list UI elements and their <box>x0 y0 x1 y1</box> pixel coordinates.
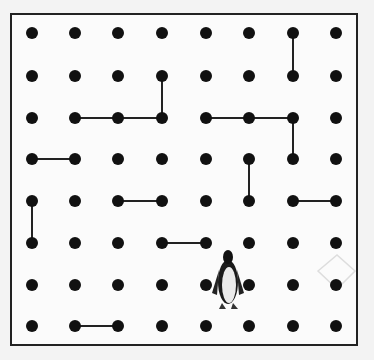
grid-dot[interactable] <box>330 195 342 207</box>
grid-dot[interactable] <box>330 27 342 39</box>
grid-dot[interactable] <box>26 195 38 207</box>
grid-dot[interactable] <box>243 320 255 332</box>
grid-dot[interactable] <box>200 237 212 249</box>
grid-dot[interactable] <box>330 237 342 249</box>
grid-dot[interactable] <box>156 320 168 332</box>
grid-dot[interactable] <box>243 279 255 291</box>
grid-dot[interactable] <box>112 237 124 249</box>
grid-dot[interactable] <box>330 112 342 124</box>
grid-dot[interactable] <box>287 112 299 124</box>
grid-dot[interactable] <box>330 153 342 165</box>
penguin-icon <box>212 250 244 309</box>
grid-dot[interactable] <box>156 70 168 82</box>
grid-dot[interactable] <box>26 279 38 291</box>
grid-dot[interactable] <box>287 320 299 332</box>
grid-dot[interactable] <box>156 279 168 291</box>
grid-dot[interactable] <box>200 112 212 124</box>
grid-dot[interactable] <box>26 27 38 39</box>
grid-dot[interactable] <box>26 320 38 332</box>
grid-dot[interactable] <box>330 70 342 82</box>
grid-dot[interactable] <box>243 153 255 165</box>
grid-dot[interactable] <box>26 70 38 82</box>
grid-dot[interactable] <box>243 112 255 124</box>
grid-dot[interactable] <box>156 112 168 124</box>
grid-dot[interactable] <box>112 70 124 82</box>
grid-dot[interactable] <box>112 320 124 332</box>
grid-dot[interactable] <box>112 279 124 291</box>
grid-dot[interactable] <box>112 153 124 165</box>
grid-dot[interactable] <box>287 70 299 82</box>
grid-dot[interactable] <box>287 279 299 291</box>
grid-dot[interactable] <box>243 237 255 249</box>
grid-dot[interactable] <box>200 27 212 39</box>
grid-dot[interactable] <box>243 195 255 207</box>
grid-dot[interactable] <box>287 237 299 249</box>
grid-dot[interactable] <box>287 153 299 165</box>
grid-dot[interactable] <box>112 27 124 39</box>
grid-dot[interactable] <box>200 70 212 82</box>
grid-dot[interactable] <box>69 320 81 332</box>
grid-dot[interactable] <box>287 195 299 207</box>
grid-dot[interactable] <box>26 153 38 165</box>
grid-dot[interactable] <box>69 279 81 291</box>
grid-dot[interactable] <box>112 112 124 124</box>
grid-dot[interactable] <box>287 27 299 39</box>
grid-dot[interactable] <box>330 320 342 332</box>
grid-dot[interactable] <box>330 279 342 291</box>
dot-grid[interactable] <box>0 0 374 360</box>
grid-dot[interactable] <box>69 195 81 207</box>
grid-dot[interactable] <box>156 237 168 249</box>
grid-dot[interactable] <box>69 153 81 165</box>
grid-dot[interactable] <box>69 70 81 82</box>
grid-dot[interactable] <box>26 237 38 249</box>
grid-dot[interactable] <box>200 153 212 165</box>
grid-dot[interactable] <box>26 112 38 124</box>
grid-dot[interactable] <box>200 279 212 291</box>
grid-dot[interactable] <box>69 112 81 124</box>
grid-dot[interactable] <box>156 27 168 39</box>
grid-dot[interactable] <box>156 195 168 207</box>
grid-dot[interactable] <box>243 27 255 39</box>
grid-dot[interactable] <box>200 320 212 332</box>
grid-dot[interactable] <box>69 27 81 39</box>
grid-dot[interactable] <box>69 237 81 249</box>
grid-dot[interactable] <box>243 70 255 82</box>
grid-dot[interactable] <box>112 195 124 207</box>
grid-dot[interactable] <box>156 153 168 165</box>
grid-dot[interactable] <box>200 195 212 207</box>
